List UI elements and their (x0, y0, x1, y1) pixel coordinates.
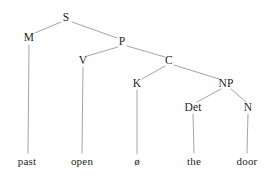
node-m: M (24, 32, 34, 44)
edge-c-to-k (142, 66, 165, 79)
edge-s-to-p (72, 22, 117, 38)
node-np: NP (218, 78, 233, 90)
edge-np-to-n (231, 89, 246, 102)
leaf-the: the (187, 156, 201, 167)
leaf-past: past (18, 156, 37, 167)
leaf-open: open (71, 156, 93, 167)
node-n: N (244, 102, 253, 114)
edge-det-to-the (193, 114, 194, 153)
node-s: S (63, 12, 70, 24)
edge-n-to-door (247, 114, 248, 153)
leaf-door: door (237, 156, 258, 167)
edge-c-to-np (174, 65, 219, 79)
node-k: K (133, 78, 142, 90)
node-p: P (119, 36, 126, 48)
edge-m-to-past (28, 45, 29, 153)
node-c: C (165, 55, 173, 67)
syntax-tree-diagram: S M P V C K NP Det N past open ø the doo… (0, 0, 274, 178)
leaf-null-morpheme: ø (134, 156, 140, 167)
edge-p-to-v (87, 47, 118, 56)
node-v: V (79, 55, 88, 67)
edge-p-to-c (127, 46, 165, 57)
edge-np-to-det (197, 89, 221, 102)
edge-s-to-m (35, 22, 61, 33)
node-det: Det (184, 102, 201, 114)
edge-v-to-open (82, 67, 83, 153)
